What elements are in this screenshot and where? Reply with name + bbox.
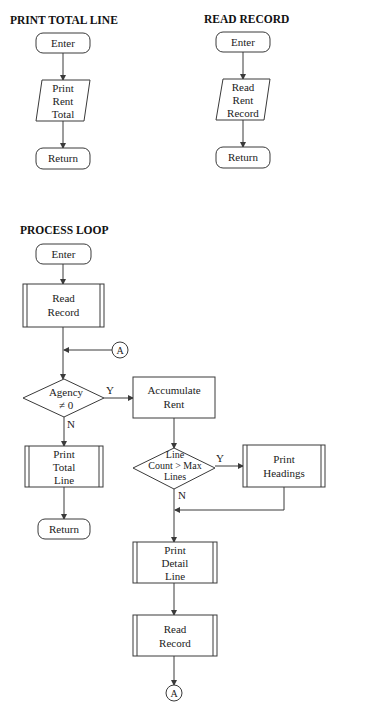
print-rent-total-io: Print Rent Total [36, 80, 90, 121]
svg-text:Record: Record [48, 306, 80, 318]
svg-text:Print: Print [52, 82, 73, 94]
module-title: PRINT TOTAL LINE [10, 14, 118, 26]
svg-text:Return: Return [49, 523, 79, 535]
svg-text:Rent: Rent [233, 94, 254, 106]
connector-a-in: A [112, 342, 128, 358]
read-rent-record-io: Read Rent Record [216, 79, 270, 120]
module-title: PROCESS LOOP [20, 224, 109, 236]
svg-text:A: A [170, 688, 178, 699]
connector-a-out: A [166, 685, 182, 701]
no-label: N [67, 418, 75, 430]
enter-terminal: Enter [216, 32, 270, 52]
flow-arrow [175, 487, 284, 510]
svg-text:Lines: Lines [164, 471, 186, 482]
enter-terminal: Enter [36, 33, 90, 53]
flowchart-canvas: PRINT TOTAL LINE Enter Print Rent Total … [0, 0, 365, 717]
svg-text:Return: Return [228, 151, 258, 163]
svg-text:Record: Record [159, 637, 191, 649]
line-count-decision: Line Count > Max Lines [133, 448, 215, 489]
svg-text:Read: Read [232, 81, 255, 93]
process-loop-module: PROCESS LOOP Enter Read Record A Agency … [20, 224, 325, 701]
no-label: N [178, 489, 186, 501]
agency-decision: Agency ≠ 0 [23, 379, 104, 417]
enter-terminal: Enter [36, 244, 91, 264]
read-record-process: Read Record [133, 615, 217, 656]
svg-text:Agency: Agency [49, 386, 84, 398]
accumulate-rent-process: Accumulate Rent [133, 377, 215, 418]
svg-text:Line: Line [166, 449, 185, 460]
print-total-line-process: Print Total Line [25, 446, 103, 487]
svg-text:Enter: Enter [231, 36, 255, 48]
read-record-process: Read Record [23, 284, 104, 327]
svg-text:Rent: Rent [164, 398, 185, 410]
svg-text:Read: Read [52, 292, 75, 304]
yes-label: Y [106, 384, 114, 396]
svg-text:≠ 0: ≠ 0 [59, 399, 74, 411]
module-title: READ RECORD [204, 13, 289, 25]
print-headings-process: Print Headings [243, 445, 325, 487]
svg-text:Count > Max: Count > Max [148, 460, 201, 471]
svg-text:Line: Line [165, 570, 185, 582]
svg-text:Read: Read [164, 623, 187, 635]
svg-text:Accumulate: Accumulate [147, 384, 200, 396]
print-total-line-module: PRINT TOTAL LINE Enter Print Rent Total … [10, 14, 118, 169]
return-terminal: Return [38, 519, 90, 539]
return-terminal: Return [36, 148, 90, 169]
svg-text:Return: Return [48, 152, 78, 164]
return-terminal: Return [216, 147, 270, 168]
svg-text:Line: Line [54, 474, 74, 486]
svg-text:Record: Record [227, 107, 259, 119]
print-detail-line-process: Print Detail Line [133, 542, 217, 583]
read-record-module: READ RECORD Enter Read Rent Record Retur… [204, 13, 289, 168]
svg-text:Print: Print [164, 544, 185, 556]
svg-text:Rent: Rent [53, 95, 74, 107]
svg-text:Total: Total [52, 108, 74, 120]
svg-text:A: A [116, 345, 124, 356]
svg-text:Headings: Headings [263, 467, 305, 479]
svg-text:Total: Total [53, 461, 75, 473]
svg-text:Enter: Enter [52, 248, 76, 260]
svg-text:Print: Print [53, 448, 74, 460]
svg-text:Detail: Detail [162, 557, 189, 569]
yes-label: Y [216, 452, 224, 464]
svg-text:Print: Print [273, 453, 294, 465]
svg-text:Enter: Enter [51, 37, 75, 49]
